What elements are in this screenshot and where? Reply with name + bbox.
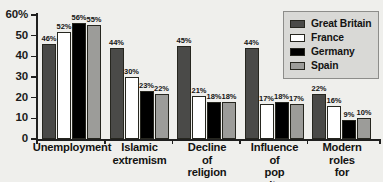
bar[interactable] xyxy=(140,91,154,139)
legend-item-label: Spain xyxy=(311,61,338,71)
bar-value-label: 45% xyxy=(176,37,191,45)
x-category-label: Decline of religion xyxy=(188,141,227,179)
y-tick-label: 0 xyxy=(0,133,28,145)
bar-slot: 22% xyxy=(155,15,169,139)
bar-slot: 52% xyxy=(57,15,71,139)
legend-swatch-icon xyxy=(290,20,305,29)
bar-value-label: 22% xyxy=(154,85,169,93)
bar-value-label: 17% xyxy=(259,95,274,103)
bar-value-label: 18% xyxy=(221,93,236,101)
bar-value-label: 17% xyxy=(289,95,304,103)
x-category-label: Unemployment xyxy=(33,141,111,154)
y-tick-label: 20 xyxy=(0,92,28,104)
x-tick-mark xyxy=(379,139,381,144)
bar-value-label: 46% xyxy=(41,35,56,43)
x-category-label: Islamic extremism xyxy=(112,141,166,166)
bar-value-label: 21% xyxy=(191,87,206,95)
bar[interactable] xyxy=(275,102,289,139)
bar-value-label: 9% xyxy=(344,111,355,119)
bar-value-label: 16% xyxy=(326,97,341,105)
bar-slot: 44% xyxy=(110,15,124,139)
bar-group: 46%52%56%55%Unemployment xyxy=(42,15,102,139)
legend-swatch-icon xyxy=(290,48,305,57)
legend-swatch-icon xyxy=(290,34,305,43)
bar[interactable] xyxy=(327,106,341,139)
bar-slot: 56% xyxy=(72,15,86,139)
y-tick-mark xyxy=(31,118,37,120)
bar[interactable] xyxy=(312,94,326,139)
bar[interactable] xyxy=(260,104,274,139)
chart-legend: Great BritainFranceGermanySpain xyxy=(283,11,379,79)
bar-group: 45%21%18%18%Decline of religion xyxy=(177,15,237,139)
y-tick-label: 50 xyxy=(0,30,28,42)
x-tick-mark xyxy=(307,139,309,144)
bar-value-label: 18% xyxy=(206,93,221,101)
legend-item-label: France xyxy=(311,33,344,43)
bar-slot: 45% xyxy=(177,15,191,139)
bar-slot: 21% xyxy=(192,15,206,139)
y-tick-label: 10 xyxy=(0,112,28,124)
bar[interactable] xyxy=(177,46,191,139)
bar[interactable] xyxy=(125,77,139,139)
y-tick-mark xyxy=(31,56,37,58)
bar-value-label: 30% xyxy=(124,68,139,76)
y-tick-mark xyxy=(31,97,37,99)
bar-value-label: 22% xyxy=(311,85,326,93)
bar-slot: 30% xyxy=(125,15,139,139)
y-tick-mark xyxy=(31,35,37,37)
bar-value-label: 44% xyxy=(244,39,259,47)
bar-value-label: 18% xyxy=(274,93,289,101)
grouped-bar-chart: 0102030405060% 46%52%56%55%Unemployment4… xyxy=(0,0,383,182)
bar-slot: 44% xyxy=(245,15,259,139)
y-tick-mark xyxy=(31,76,37,78)
bar[interactable] xyxy=(155,94,169,139)
bar-slot: 17% xyxy=(260,15,274,139)
bar-group-bars: 44%30%23%22% xyxy=(110,15,170,139)
bar[interactable] xyxy=(290,104,304,139)
bar-slot: 18% xyxy=(207,15,221,139)
bar[interactable] xyxy=(357,118,371,139)
y-tick-label: 60% xyxy=(0,9,28,21)
bar[interactable] xyxy=(110,48,124,139)
bar-group-bars: 46%52%56%55% xyxy=(42,15,102,139)
legend-item-fr[interactable]: France xyxy=(290,31,372,45)
x-category-label: Influence of pop culture xyxy=(251,141,298,182)
bar[interactable] xyxy=(72,23,86,139)
legend-item-gb[interactable]: Great Britain xyxy=(290,17,372,31)
bar-value-label: 44% xyxy=(109,39,124,47)
bar[interactable] xyxy=(87,25,101,139)
bar-value-label: 52% xyxy=(56,23,71,31)
bar-slot: 46% xyxy=(42,15,56,139)
y-tick-label: 40 xyxy=(0,50,28,62)
bar-group: 44%30%23%22%Islamic extremism xyxy=(110,15,170,139)
bar-slot: 55% xyxy=(87,15,101,139)
x-tick-mark xyxy=(172,139,174,144)
bar-value-label: 10% xyxy=(356,109,371,117)
bar[interactable] xyxy=(42,44,56,139)
legend-item-label: Germany xyxy=(311,47,355,57)
bar-value-label: 23% xyxy=(139,82,154,90)
x-tick-mark xyxy=(239,139,241,144)
bar[interactable] xyxy=(245,48,259,139)
bar-group-bars: 45%21%18%18% xyxy=(177,15,237,139)
legend-item-de[interactable]: Germany xyxy=(290,45,372,59)
bar-slot: 18% xyxy=(222,15,236,139)
bar-slot: 23% xyxy=(140,15,154,139)
x-category-label: Modern roles for women xyxy=(322,141,361,182)
bar-value-label: 56% xyxy=(71,14,86,22)
bar[interactable] xyxy=(192,96,206,139)
legend-item-label: Great Britain xyxy=(311,19,371,29)
legend-swatch-icon xyxy=(290,62,305,71)
bar[interactable] xyxy=(57,32,71,139)
bar[interactable] xyxy=(207,102,221,139)
y-tick-mark xyxy=(31,14,37,16)
legend-item-es[interactable]: Spain xyxy=(290,59,372,73)
bar-value-label: 55% xyxy=(86,16,101,24)
y-tick-label: 30 xyxy=(0,71,28,83)
bar[interactable] xyxy=(222,102,236,139)
bar[interactable] xyxy=(342,120,356,139)
